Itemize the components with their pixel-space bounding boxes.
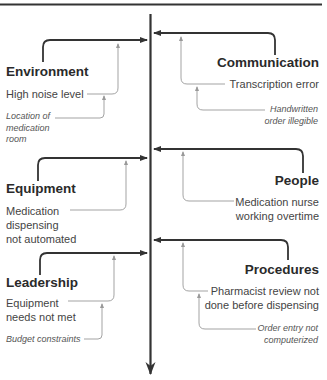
category-environment: Environment [6,64,89,79]
category-leadership: Leadership [6,275,78,290]
cause-medication-nurse-working-overtime: Medication nurse working overtime [235,195,319,223]
category-procedures: Procedures [245,262,319,277]
subcause-order-entry-not-computerized: Order entry not computerized [257,323,318,346]
cause-transcription-error: Transcription error [230,77,319,91]
subcause-budget-constraints: Budget constraints [6,334,81,346]
category-equipment: Equipment [6,181,76,196]
subcause-location-of-medication-room: Location of medication room [6,111,50,146]
cause-equipment-needs-not-met: Equipment needs not met [6,296,76,324]
subcause-handwritten-order-illegible: Handwritten order illegible [264,104,318,127]
category-communication: Communication [217,55,319,70]
cause-medication-dispensing-not-automated: Medication dispensing not automated [6,204,76,246]
cause-pharmacist-review-not-done: Pharmacist review not done before dispen… [205,284,319,312]
category-people: People [275,173,319,188]
cause-high-noise-level: High noise level [6,87,84,101]
